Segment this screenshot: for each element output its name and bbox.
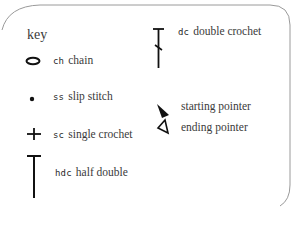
legend-desc: half double <box>76 166 128 178</box>
legend-item-chain: chchain <box>53 54 93 67</box>
legend-desc: starting pointer <box>181 100 251 112</box>
legend-item-starting-pointer: starting pointer <box>181 100 251 113</box>
chain-oval-icon <box>24 55 42 67</box>
legend-item-slip-stitch: ssslip stitch <box>53 90 113 103</box>
legend-title: key <box>27 27 47 43</box>
slip-stitch-dot-icon <box>28 95 36 103</box>
legend-item-single-crochet: scsingle crochet <box>53 128 132 141</box>
legend-abbr: sc <box>53 130 64 140</box>
legend-desc: double crochet <box>193 25 261 37</box>
double-crochet-t-slash-icon <box>151 26 167 70</box>
single-crochet-plus-icon <box>26 126 42 142</box>
legend-item-double-crochet: dcdouble crochet <box>178 25 261 38</box>
ending-pointer-icon <box>155 118 171 136</box>
legend-item-ending-pointer: ending pointer <box>181 121 248 134</box>
legend-abbr: dc <box>178 27 189 37</box>
legend-desc: slip stitch <box>68 90 112 102</box>
legend-desc: chain <box>68 54 93 66</box>
legend-desc: single crochet <box>68 128 132 140</box>
legend-abbr: hdc <box>55 168 72 178</box>
legend-abbr: ch <box>53 56 64 66</box>
legend-item-half-double: hdchalf double <box>55 166 128 179</box>
legend-desc: ending pointer <box>181 121 248 133</box>
half-double-t-icon <box>25 154 43 200</box>
legend-abbr: ss <box>53 92 64 102</box>
